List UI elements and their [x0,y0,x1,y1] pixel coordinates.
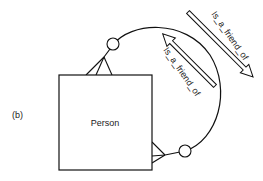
crows-foot-top [86,57,112,75]
optional-circle-top [107,38,119,50]
diagram: Person (b) Is_a_friend_of Is_a_friend_of [0,0,263,181]
entity-person-label: Person [91,118,120,128]
figure-label: (b) [12,110,23,120]
crows-foot-bottom [152,142,165,163]
er-diagram: Person (b) Is_a_friend_of Is_a_friend_of [0,0,263,181]
optional-circle-bottom [179,145,191,157]
